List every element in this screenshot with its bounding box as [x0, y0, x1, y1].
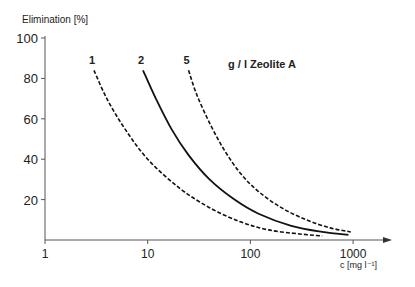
x-axis: [45, 237, 392, 243]
y-tick-label: 60: [24, 112, 38, 127]
x-ticks: 1101001000: [42, 240, 367, 261]
y-ticks: 20406080100: [16, 31, 45, 208]
elimination-chart: Elimination [%] c [mg l⁻¹] 20406080100 1…: [0, 0, 415, 287]
y-tick-label: 80: [24, 71, 38, 86]
x-tick-label: 10: [141, 247, 155, 261]
x-tick-label: 1: [42, 247, 49, 261]
series-label: 1: [89, 54, 95, 66]
x-axis-label: c [mg l⁻¹]: [340, 260, 377, 270]
y-tick-label: 20: [24, 193, 38, 208]
series-lines: 125: [89, 54, 351, 236]
series-label: 5: [184, 54, 190, 66]
series-line-2: [143, 70, 348, 235]
y-axis-label: Elimination [%]: [22, 14, 88, 25]
x-tick-label: 100: [240, 247, 260, 261]
x-tick-label: 1000: [340, 247, 367, 261]
legend-suffix: g / l Zeolite A: [228, 58, 296, 70]
y-tick-label: 40: [24, 152, 38, 167]
y-tick-label: 100: [16, 31, 38, 46]
series-label: 2: [138, 54, 144, 66]
series-line-5: [189, 70, 351, 232]
